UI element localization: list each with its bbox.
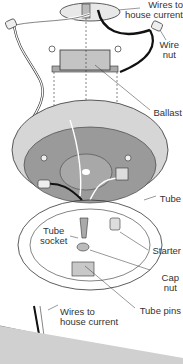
fixture-pan	[12, 100, 168, 203]
label-ballast: Ballast	[153, 108, 182, 118]
label-wires-bottom: Wires to house current	[60, 307, 118, 327]
label-cap-nut: Cap nut	[162, 273, 179, 293]
label-tube-socket: Tube socket	[40, 226, 67, 246]
label-starter: Starter	[152, 246, 181, 256]
ballast	[49, 46, 121, 72]
label-tube: Tube	[160, 194, 181, 204]
label-wires-top: Wires to house current	[125, 0, 183, 20]
label-tube-pins: Tube pins	[140, 306, 181, 316]
label-wire-nut: Wire nut	[159, 40, 179, 60]
